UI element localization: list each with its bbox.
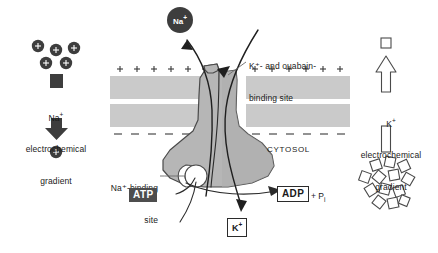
na-ion-transported [167, 7, 193, 33]
na-gradient-ions-top [32, 40, 80, 69]
k-ouabain-line2: binding site [249, 93, 354, 104]
na-binding-line2: site [86, 215, 158, 226]
k-ouabain-binding-site-label: K⁺- and ouabain- binding site [249, 40, 354, 124]
atp-box[interactable]: ATP [129, 188, 157, 202]
na-binding-site-label: Na⁺-binding site [86, 162, 158, 246]
k-ouabain-line1: K⁺- and ouabain- [249, 61, 354, 72]
k-gradient-square-top [381, 38, 391, 48]
k-gradient-caption-line3: gradient [336, 182, 438, 193]
figure-canvas: Na+ Na+ electrochemical gradient K+ elec… [0, 0, 438, 253]
k-ouabain-leader [228, 62, 246, 75]
adp-box[interactable]: ADP [277, 186, 309, 202]
phosphate-label: + Pi [311, 191, 325, 203]
potassium-box[interactable]: K+ [227, 218, 247, 237]
na-gradient-caption-line2: electrochemical [6, 144, 106, 155]
na-gradient-bar [50, 74, 63, 88]
k-gradient-caption-line2: electrochemical [336, 150, 438, 161]
na-gradient-caption-line1: Na+ [6, 110, 106, 123]
cytosol-label: CYTOSOL [267, 145, 310, 154]
k-gradient-arrow-up [376, 56, 396, 92]
k-release-arrowhead [236, 199, 247, 212]
